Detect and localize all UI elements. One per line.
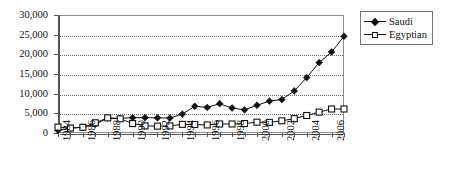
open-square-icon bbox=[364, 29, 386, 40]
legend-marker bbox=[372, 32, 378, 38]
x-axis-tick bbox=[207, 133, 208, 137]
axis-baseline bbox=[60, 134, 343, 135]
data-point-marker bbox=[329, 106, 335, 112]
y-axis-tick-label: 25,000 bbox=[0, 30, 48, 41]
line-chart: 05,00010,00015,00020,00025,00030,000 198… bbox=[0, 0, 451, 192]
legend-item-saudi[interactable]: Saudi bbox=[364, 15, 427, 28]
x-axis-tick bbox=[83, 133, 84, 137]
x-axis-tick bbox=[332, 133, 333, 137]
data-point-marker bbox=[304, 112, 310, 118]
x-axis-tick-label: 2002 bbox=[286, 120, 297, 141]
data-point-marker bbox=[278, 96, 285, 103]
x-axis-tick bbox=[232, 133, 233, 137]
series-layer bbox=[58, 15, 344, 133]
legend-label: Saudi bbox=[389, 16, 413, 27]
y-axis-tick-label: 15,000 bbox=[0, 69, 48, 80]
x-axis-tick-label: 2004 bbox=[311, 120, 322, 141]
data-point-marker bbox=[254, 102, 261, 109]
y-axis-tick-label: 5,000 bbox=[0, 108, 48, 119]
data-point-marker bbox=[179, 111, 186, 118]
data-point-marker bbox=[204, 104, 211, 111]
filled-diamond-icon bbox=[364, 16, 386, 27]
x-axis-tick-label: 1988 bbox=[112, 120, 123, 141]
data-point-marker bbox=[316, 109, 322, 115]
data-point-marker bbox=[216, 100, 223, 107]
x-axis-tick-label: 1984 bbox=[62, 120, 73, 141]
x-axis-tick bbox=[157, 133, 158, 137]
x-axis-tick-label: 1996 bbox=[211, 120, 222, 141]
chart-legend: SaudiEgyptian bbox=[360, 11, 433, 45]
x-axis-tick bbox=[108, 133, 109, 137]
data-point-marker bbox=[105, 115, 111, 121]
data-point-marker bbox=[130, 121, 136, 127]
x-axis-tick bbox=[257, 133, 258, 137]
x-axis-tick bbox=[307, 133, 308, 137]
legend-marker bbox=[371, 17, 379, 25]
data-point-marker bbox=[229, 105, 236, 112]
x-axis-tick bbox=[133, 133, 134, 137]
x-axis-tick-label: 1998 bbox=[236, 120, 247, 141]
y-axis-tick-label: 10,000 bbox=[0, 89, 48, 100]
data-point-marker bbox=[279, 118, 285, 124]
series-egyptian bbox=[55, 106, 347, 131]
data-point-marker bbox=[191, 103, 198, 110]
legend-label: Egyptian bbox=[389, 29, 427, 40]
x-axis-tick-label: 1992 bbox=[161, 120, 172, 141]
series-line bbox=[58, 109, 344, 128]
legend-item-egyptian[interactable]: Egyptian bbox=[364, 28, 427, 41]
x-axis-tick-label: 1990 bbox=[137, 120, 148, 141]
data-point-marker bbox=[341, 106, 347, 112]
data-point-marker bbox=[241, 106, 248, 113]
x-axis-tick bbox=[58, 133, 59, 137]
y-axis-tick-label: 30,000 bbox=[0, 10, 48, 21]
y-axis-tick-label: 0 bbox=[0, 128, 48, 139]
data-point-marker bbox=[80, 124, 86, 130]
series-line bbox=[58, 36, 344, 130]
x-axis-tick bbox=[282, 133, 283, 137]
x-axis-tick bbox=[182, 133, 183, 137]
x-axis-tick-label: 2000 bbox=[261, 120, 272, 141]
x-axis-tick-label: 1986 bbox=[87, 120, 98, 141]
x-axis-tick-label: 1994 bbox=[186, 120, 197, 141]
x-axis-tick-label: 2006 bbox=[336, 120, 347, 141]
data-point-marker bbox=[266, 98, 273, 105]
y-axis-tick-label: 20,000 bbox=[0, 49, 48, 60]
